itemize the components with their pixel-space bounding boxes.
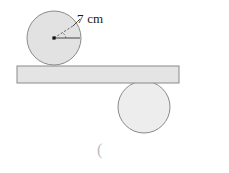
horizontal-plank [17,66,179,83]
circle-center-dot [52,36,55,39]
stray-parenthesis-mark: ( [97,141,102,159]
geometry-diagram [0,0,229,173]
lower-circle [118,81,170,133]
radius-dimension-label: 7 cm [77,11,103,27]
figure-canvas: 7 cm ( [0,0,229,173]
